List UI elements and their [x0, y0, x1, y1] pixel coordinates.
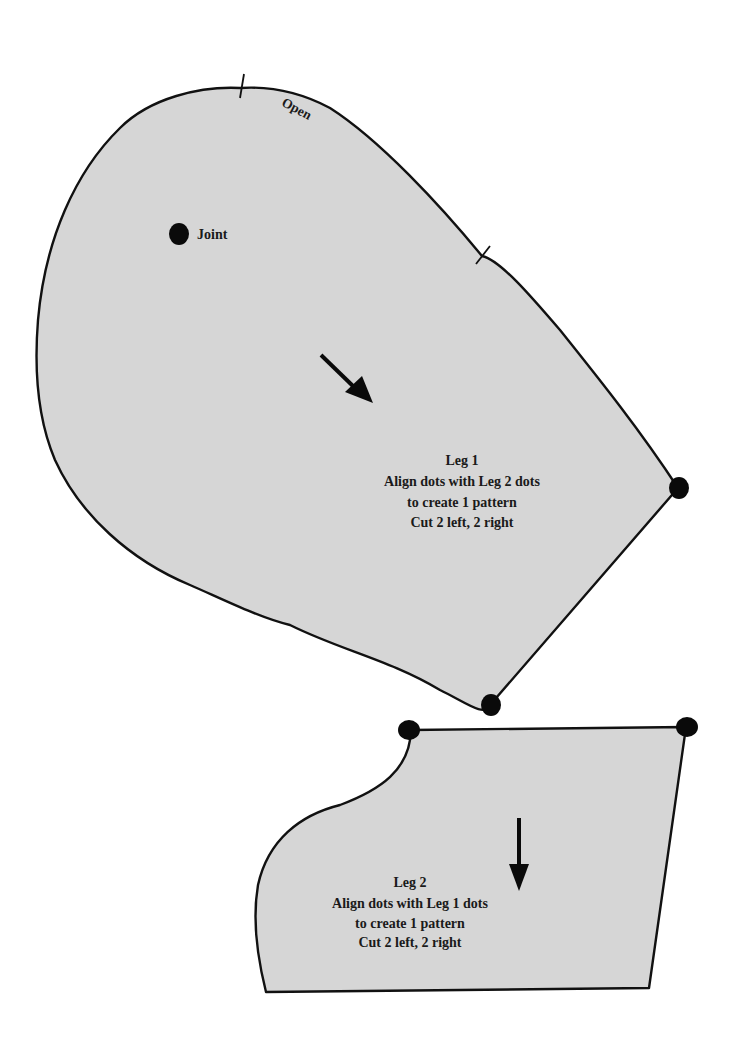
- leg-2-piece: Leg 2 Align dots with Leg 1 dots to crea…: [256, 717, 698, 992]
- alignment-dot-bottom: [481, 694, 501, 716]
- joint-label: Joint: [197, 227, 228, 242]
- leg-2-outline: [256, 727, 686, 992]
- leg-1-instruction-2: to create 1 pattern: [407, 495, 517, 510]
- leg-2-instruction-2: to create 1 pattern: [355, 916, 465, 931]
- leg-1-title: Leg 1: [445, 453, 478, 468]
- leg-2-instruction-3: Cut 2 left, 2 right: [358, 935, 461, 950]
- joint-dot: [169, 223, 189, 245]
- leg-1-instruction-3: Cut 2 left, 2 right: [410, 515, 513, 530]
- alignment-dot-right: [669, 477, 689, 499]
- leg-2-title: Leg 2: [393, 875, 426, 890]
- alignment-dot-right: [676, 717, 698, 737]
- pattern-sheet: Open Joint Leg 1 Align dots with Leg 2 d…: [0, 0, 743, 1048]
- leg-2-instruction-1: Align dots with Leg 1 dots: [332, 896, 489, 911]
- alignment-dot-left: [398, 720, 420, 740]
- leg-1-instruction-1: Align dots with Leg 2 dots: [384, 474, 541, 489]
- leg-1-piece: Open Joint Leg 1 Align dots with Leg 2 d…: [37, 74, 689, 716]
- leg-1-outline: [37, 88, 678, 710]
